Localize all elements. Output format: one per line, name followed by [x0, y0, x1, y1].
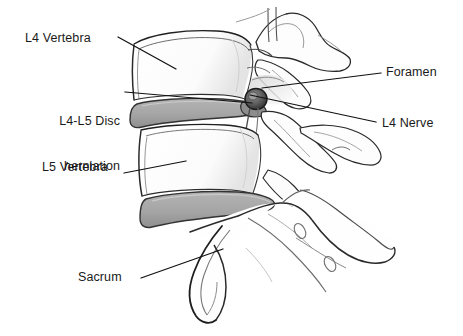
l5-posterior-elements	[261, 111, 381, 206]
label-sacrum: Sacrum	[78, 270, 122, 285]
label-l4-nerve: L4 Nerve	[382, 116, 434, 131]
spine-illustration-figure: L4 Vertebra L4-L5 Disc herniation L5 Ver…	[0, 0, 463, 336]
l5-vertebral-body	[139, 124, 261, 196]
label-l4-vertebra: L4 Vertebra	[25, 31, 91, 46]
label-foramen: Foramen	[386, 65, 437, 80]
label-l5-vertebra: L5 Vertebra	[42, 160, 108, 175]
l4-vertebral-body	[133, 30, 253, 101]
label-l4-l5-disc-herniation: L4-L5 Disc herniation	[59, 84, 120, 204]
label-herniation-line1: L4-L5 Disc	[59, 114, 120, 129]
